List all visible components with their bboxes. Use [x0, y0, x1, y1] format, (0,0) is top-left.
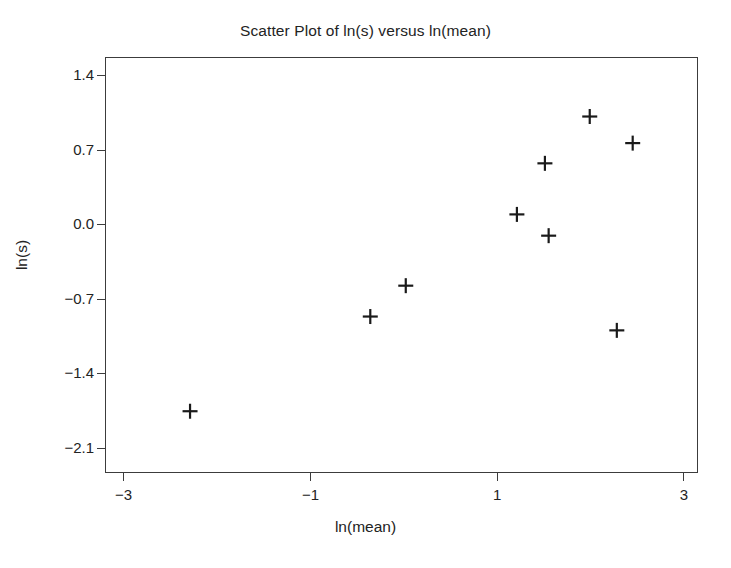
- data-point-marker: [609, 323, 624, 338]
- y-tick: [97, 299, 105, 300]
- y-tick-label: −1.4: [38, 364, 94, 381]
- data-point-marker: [398, 278, 413, 293]
- y-axis-label: ln(s): [13, 195, 31, 315]
- y-tick: [97, 373, 105, 374]
- chart-title: Scatter Plot of ln(s) versus ln(mean): [0, 22, 731, 40]
- data-point-marker: [509, 207, 524, 222]
- x-tick-label: 1: [467, 486, 527, 503]
- y-tick-label: 0.7: [38, 141, 94, 158]
- x-tick-label: −1: [280, 486, 340, 503]
- y-tick: [97, 448, 105, 449]
- y-tick: [97, 224, 105, 225]
- x-axis-label: ln(mean): [0, 518, 731, 536]
- data-point-marker: [183, 404, 198, 419]
- y-tick: [97, 150, 105, 151]
- plot-area: [105, 57, 698, 473]
- y-tick-label: 1.4: [38, 66, 94, 83]
- scatter-plot-figure: Scatter Plot of ln(s) versus ln(mean) 1.…: [0, 0, 731, 568]
- y-tick: [97, 75, 105, 76]
- data-points-layer: [106, 58, 699, 474]
- y-tick-label: −0.7: [38, 290, 94, 307]
- data-point-marker: [541, 228, 556, 243]
- y-tick-label: −2.1: [38, 439, 94, 456]
- x-tick-label: −3: [94, 486, 154, 503]
- x-tick: [123, 473, 124, 481]
- x-tick: [683, 473, 684, 481]
- data-point-marker: [582, 109, 597, 124]
- x-tick: [310, 473, 311, 481]
- data-point-marker: [537, 156, 552, 171]
- data-point-marker: [363, 309, 378, 324]
- x-tick-label: 3: [654, 486, 714, 503]
- x-tick: [497, 473, 498, 481]
- data-point-marker: [625, 136, 640, 151]
- y-tick-label: 0.0: [38, 215, 94, 232]
